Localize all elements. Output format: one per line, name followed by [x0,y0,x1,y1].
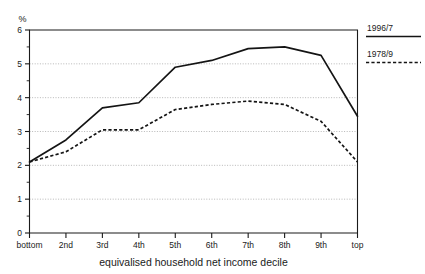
x-tick-label-6th: 6th [206,240,218,250]
legend-label-1996-7: 1996/7 [367,23,393,33]
y-axis-ticks [25,30,30,233]
y-tick-label-4: 4 [17,93,22,103]
chart-container: 0123456 bottom2nd3rd4th5th6th7th8th9thto… [0,0,425,274]
gridlines [30,64,358,199]
x-tick-label-4th: 4th [133,240,145,250]
x-axis-ticks [30,233,358,238]
x-tick-label-9th: 9th [315,240,327,250]
y-tick-label-6: 6 [17,25,22,35]
legend-label-1978-9: 1978/9 [367,49,393,59]
x-axis-tick-labels: bottom2nd3rd4th5th6th7th8th9thtop [17,240,364,250]
x-tick-label-bottom: bottom [17,240,43,250]
y-tick-label-1: 1 [17,194,22,204]
y-tick-label-5: 5 [17,59,22,69]
x-tick-label-7th: 7th [242,240,254,250]
x-tick-label-top: top [352,240,364,250]
x-tick-label-2nd: 2nd [59,240,73,250]
x-tick-label-8th: 8th [279,240,291,250]
y-tick-label-2: 2 [17,160,22,170]
chart-legend: 1996/71978/9 [366,23,421,63]
y-axis-unit-label: % [18,14,26,24]
y-axis-tick-labels: 0123456 [17,25,22,238]
x-tick-label-3rd: 3rd [96,240,109,250]
y-tick-label-0: 0 [17,228,22,238]
line-chart: 0123456 bottom2nd3rd4th5th6th7th8th9thto… [0,0,425,274]
y-tick-label-3: 3 [17,127,22,137]
x-axis-title: equivalised household net income decile [99,256,288,268]
x-tick-label-5th: 5th [169,240,181,250]
